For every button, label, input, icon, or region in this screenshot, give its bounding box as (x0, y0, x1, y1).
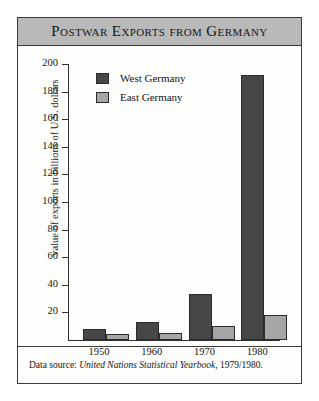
y-axis-tick-label: 160 (42, 112, 58, 123)
legend-label-west-germany: West Germany (120, 72, 185, 84)
y-axis-tick: 160 (62, 119, 69, 120)
legend-swatch-east-germany (96, 92, 109, 103)
source-publication: United Nations Statistical Yearbook (79, 360, 215, 370)
chart-title-band: Postwar Exports from Germany (18, 18, 301, 46)
legend-item-west-germany: West Germany (96, 72, 185, 84)
y-axis-tick-label: 20 (48, 305, 59, 316)
legend-item-east-germany: East Germany (96, 91, 185, 103)
x-axis-label: 1960 (126, 346, 178, 357)
y-axis-tick: 140 (62, 147, 69, 148)
y-axis-tick: 200 (62, 64, 69, 65)
y-axis-tick: 100 (62, 202, 69, 203)
y-axis-tick: 20 (62, 312, 69, 313)
y-axis-tick-label: 100 (42, 195, 58, 206)
source-suffix: , 1979/1980. (215, 360, 263, 370)
x-axis-label: 1970 (179, 346, 231, 357)
y-axis-tick: 120 (62, 174, 69, 175)
bar-east-germany (264, 315, 287, 340)
y-axis-tick-label: 120 (42, 167, 58, 178)
plot-area: value of exports in billions of U.S. dol… (18, 46, 301, 346)
x-axis-label: 1950 (73, 346, 125, 357)
y-axis-tick-label: 140 (42, 140, 58, 151)
bar-west-germany (189, 294, 212, 340)
bar-west-germany (136, 322, 159, 340)
bar-group (179, 64, 232, 340)
x-axis-line (68, 340, 280, 341)
y-axis-tick-label: 180 (42, 85, 58, 96)
chart-figure: Postwar Exports from Germany value of ex… (17, 17, 302, 384)
y-axis-tick: 180 (62, 92, 69, 93)
y-axis-tick: 60 (62, 257, 69, 258)
source-prefix: Data source: (29, 360, 77, 370)
y-axis-tick-label: 80 (48, 223, 59, 234)
bar-west-germany (241, 75, 264, 340)
y-axis-tick-label: 200 (42, 57, 58, 68)
y-axis-tick: 40 (62, 285, 69, 286)
y-axis-tick-label: 60 (48, 250, 59, 261)
chart-legend: West Germany East Germany (96, 72, 185, 110)
y-axis-tick-label: 40 (48, 278, 59, 289)
legend-swatch-west-germany (96, 73, 109, 84)
bar-west-germany (83, 329, 106, 340)
y-axis-tick: 80 (62, 230, 69, 231)
bar-group (231, 64, 284, 340)
legend-label-east-germany: East Germany (120, 91, 183, 103)
source-note: Data source: United Nations Statistical … (29, 360, 263, 370)
page-title: Postwar Exports from Germany (51, 23, 267, 40)
x-axis-label: 1980 (231, 346, 283, 357)
